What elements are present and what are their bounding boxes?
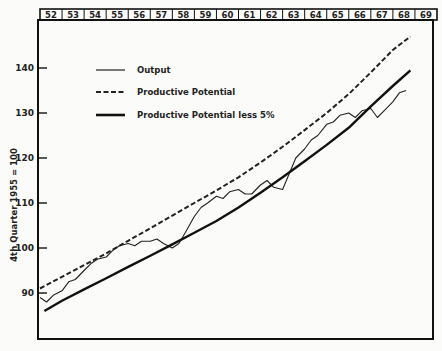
year-label: 55 <box>111 10 123 20</box>
year-label: 59 <box>199 10 211 20</box>
y-tick-label: 130 <box>15 108 34 118</box>
year-label: 64 <box>310 10 322 20</box>
y-tick-label: 140 <box>15 63 34 73</box>
year-label: 67 <box>376 10 388 20</box>
year-label: 68 <box>398 10 410 20</box>
y-axis: 90100110120130140 <box>15 63 47 298</box>
output-line <box>40 91 406 303</box>
y-tick-label: 90 <box>21 288 34 298</box>
year-label: 56 <box>133 10 145 20</box>
productive-potential-line <box>40 37 410 289</box>
year-label: 57 <box>155 10 167 20</box>
year-label: 61 <box>244 10 256 20</box>
series-layer <box>40 37 410 312</box>
legend: Output Productive Potential Productive P… <box>96 65 275 120</box>
year-label: 60 <box>222 10 234 20</box>
year-label: 52 <box>45 10 57 20</box>
year-label: 53 <box>67 10 79 20</box>
year-header-strip: 525354555657585960616263646566676869 <box>40 9 437 20</box>
year-label: 63 <box>288 10 300 20</box>
year-label: 54 <box>89 10 101 20</box>
y-axis-label: 4th Quarter 1955 = 100 <box>9 148 19 262</box>
year-label: 66 <box>354 10 366 20</box>
chart: 525354555657585960616263646566676869 901… <box>0 0 442 351</box>
year-label: 62 <box>266 10 278 20</box>
legend-label-productive-potential-less-5: Productive Potential less 5% <box>137 110 275 120</box>
year-label: 69 <box>420 10 432 20</box>
legend-label-productive-potential: Productive Potential <box>137 87 235 97</box>
legend-label-output: Output <box>137 65 171 75</box>
productive-potential-less-5-line <box>44 70 410 311</box>
year-label: 58 <box>177 10 189 20</box>
plot-frame <box>38 20 433 339</box>
year-label: 65 <box>332 10 344 20</box>
